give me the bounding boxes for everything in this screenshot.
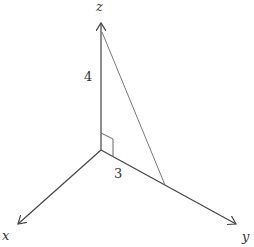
y-axis-label: y [241,229,250,244]
z-axis-label: z [95,0,103,14]
horizontal-leg-length: 3 [114,166,122,181]
vertical-leg-length: 4 [84,69,92,84]
hypotenuse-line [102,32,165,185]
x-axis-label: x [2,228,10,243]
3d-axes-diagram: z x y 4 3 [0,0,254,247]
x-axis [18,150,101,224]
right-angle-marker [101,133,113,156]
y-axis [101,150,236,224]
